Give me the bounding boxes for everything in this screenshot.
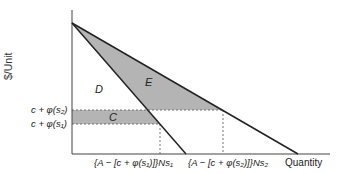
x-tick-s2: {A − [c + φ(s₂)]}Ns₂ xyxy=(188,157,268,168)
region-e-label: E xyxy=(145,76,152,88)
y-tick-s1: c + φ(s₁) xyxy=(31,118,67,129)
diagram-canvas xyxy=(0,0,338,174)
x-tick-s1: {A − [c + φ(s₁)]}Ns₁ xyxy=(94,157,173,168)
region-d-label: D xyxy=(95,83,103,95)
y-tick-s2: c + φ(s₂) xyxy=(31,104,67,115)
x-axis-label: Quantity xyxy=(285,157,322,168)
demand-line-outer xyxy=(72,23,298,154)
region-c-label: C xyxy=(109,111,117,123)
y-axis-label: $/Unit xyxy=(2,53,14,80)
